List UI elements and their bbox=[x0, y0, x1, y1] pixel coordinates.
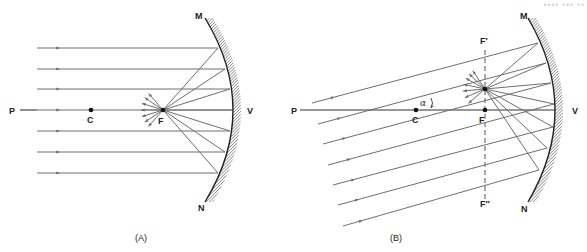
arrowhead-icon bbox=[56, 129, 60, 132]
arrowhead-icon bbox=[359, 220, 363, 223]
reflected-ray bbox=[145, 69, 225, 122]
label-a-f: F bbox=[158, 117, 164, 126]
label-b-n: N bbox=[521, 205, 528, 214]
arrowhead-icon bbox=[56, 46, 60, 49]
arrowhead-icon bbox=[56, 87, 60, 90]
reflected-ray bbox=[465, 63, 546, 98]
focal-point-f bbox=[161, 108, 166, 113]
arrowhead-icon bbox=[141, 108, 145, 111]
label-a-v: V bbox=[247, 107, 253, 116]
reflected-ray bbox=[148, 48, 218, 126]
reflected-ray bbox=[142, 89, 230, 117]
label-a-n: N bbox=[198, 204, 205, 213]
arrowhead-icon bbox=[56, 108, 60, 111]
label-b-c: C bbox=[412, 116, 419, 125]
cropped-header-text: ▪▪▪▪ ▪▪▪ ▪▪ bbox=[544, 0, 585, 9]
panel-b-oblique-rays bbox=[300, 18, 563, 226]
label-b-f-double-prime: F″ bbox=[480, 200, 490, 209]
arrowhead-icon bbox=[142, 114, 146, 117]
concave-mirror-diagram bbox=[0, 0, 587, 252]
caption-a: (A) bbox=[135, 234, 147, 243]
reflected-ray bbox=[469, 74, 547, 148]
center-of-curvature-c bbox=[414, 108, 419, 113]
reflected-ray bbox=[145, 98, 225, 152]
caption-b: (B) bbox=[390, 234, 402, 243]
reflected-ray bbox=[149, 93, 218, 173]
label-a-m: M bbox=[195, 12, 203, 21]
label-b-f: F bbox=[479, 116, 485, 125]
focal-point-f-prime bbox=[483, 87, 488, 92]
incident-ray bbox=[343, 170, 539, 226]
arrowhead-icon bbox=[56, 171, 60, 174]
panel-a-parallel-rays bbox=[20, 18, 241, 202]
label-a-p: P bbox=[9, 107, 15, 116]
label-a-c: C bbox=[87, 116, 94, 125]
label-b-alpha: α bbox=[420, 99, 426, 108]
reflected-ray bbox=[142, 103, 230, 131]
label-b-m: M bbox=[520, 12, 528, 21]
label-b-p: P bbox=[291, 107, 297, 116]
focal-point-f bbox=[483, 108, 488, 113]
label-b-v: V bbox=[572, 107, 578, 116]
arrowhead-icon bbox=[56, 67, 60, 70]
center-of-curvature-c bbox=[89, 108, 94, 113]
arrowhead-icon bbox=[142, 103, 146, 106]
arrowhead-icon bbox=[56, 150, 60, 153]
label-b-f-prime: F′ bbox=[480, 37, 488, 46]
